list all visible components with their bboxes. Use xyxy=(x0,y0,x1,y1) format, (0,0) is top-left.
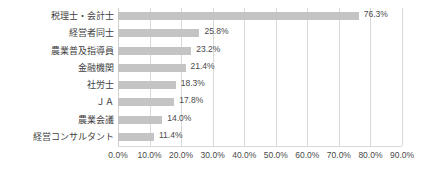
category-label: 経営コンサルタント xyxy=(0,129,114,146)
x-tick-label: 20.0% xyxy=(169,148,193,162)
bar-row: 14.0% xyxy=(118,112,402,129)
bar-value-label: 17.8% xyxy=(179,93,203,108)
bar-row: 17.8% xyxy=(118,94,402,111)
bar-value-label: 21.4% xyxy=(191,59,215,74)
x-tick-label: 60.0% xyxy=(295,148,319,162)
bar xyxy=(118,98,174,106)
x-tick-label: 40.0% xyxy=(232,148,256,162)
bar xyxy=(118,116,162,124)
bar-row: 18.3% xyxy=(118,77,402,94)
category-label: 農業会議 xyxy=(0,112,114,129)
x-tick-label: 80.0% xyxy=(358,148,382,162)
x-tick-label: 50.0% xyxy=(264,148,288,162)
x-axis-baseline xyxy=(118,146,402,147)
bar-row: 21.4% xyxy=(118,60,402,77)
bar-value-label: 18.3% xyxy=(181,76,205,91)
bar-row: 25.8% xyxy=(118,25,402,42)
category-label: 農業普及指導員 xyxy=(0,43,114,60)
x-tick-label: 70.0% xyxy=(327,148,351,162)
bar-value-label: 23.2% xyxy=(196,42,220,57)
category-label: 金融機関 xyxy=(0,60,114,77)
bar-chart: 税理士・会計士経営者同士農業普及指導員金融機関社労士ＪＡ農業会議経営コンサルタン… xyxy=(0,0,422,173)
x-tick-label: 30.0% xyxy=(201,148,225,162)
bar-row: 23.2% xyxy=(118,43,402,60)
plot-area: 76.3%25.8%23.2%21.4%18.3%17.8%14.0%11.4% xyxy=(118,8,402,146)
category-axis-labels: 税理士・会計士経営者同士農業普及指導員金融機関社労士ＪＡ農業会議経営コンサルタン… xyxy=(0,8,114,146)
bar xyxy=(118,47,191,55)
category-label: 税理士・会計士 xyxy=(0,8,114,25)
bar-value-label: 11.4% xyxy=(159,128,182,143)
bar-row: 76.3% xyxy=(118,8,402,25)
category-label: 経営者同士 xyxy=(0,25,114,42)
bar xyxy=(118,133,154,141)
x-tick-label: 0.0% xyxy=(108,148,127,162)
bar-rows: 76.3%25.8%23.2%21.4%18.3%17.8%14.0%11.4% xyxy=(118,8,402,146)
bar xyxy=(118,64,186,72)
bar-row: 11.4% xyxy=(118,129,402,146)
bar xyxy=(118,12,359,20)
bar xyxy=(118,29,199,37)
x-tick-label: 90.0% xyxy=(390,148,414,162)
bar-value-label: 76.3% xyxy=(364,7,388,22)
category-label: ＪＡ xyxy=(0,94,114,111)
x-tick-label: 10.0% xyxy=(137,148,161,162)
bar-value-label: 25.8% xyxy=(204,24,228,39)
gridline-90.0pct xyxy=(402,8,403,146)
bar-value-label: 14.0% xyxy=(167,111,191,126)
x-axis-tick-labels: 0.0%10.0%20.0%30.0%40.0%50.0%60.0%70.0%8… xyxy=(0,148,422,168)
bar xyxy=(118,81,176,89)
category-label: 社労士 xyxy=(0,77,114,94)
